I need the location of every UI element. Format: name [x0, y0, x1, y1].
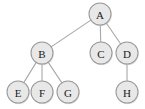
node-layer: ABCDEFGH [7, 3, 139, 104]
tree-diagram-canvas: ABCDEFGH [0, 0, 145, 109]
tree-node-b[interactable]: B [31, 42, 54, 65]
tree-edge-b-g [48, 62, 62, 83]
tree-node-c[interactable]: C [90, 42, 113, 65]
tree-edge-b-e [24, 62, 36, 82]
tree-node-e[interactable]: E [7, 81, 30, 104]
tree-node-label: G [64, 87, 72, 99]
tree-diagram: ABCDEFGH [0, 0, 145, 109]
tree-node-f[interactable]: F [31, 81, 54, 104]
tree-node-h[interactable]: H [116, 81, 139, 104]
tree-node-label: F [39, 87, 45, 99]
tree-node-a[interactable]: A [89, 3, 112, 26]
tree-node-label: A [96, 9, 104, 21]
tree-node-label: C [97, 48, 104, 60]
tree-node-g[interactable]: G [57, 81, 80, 104]
tree-node-label: E [15, 87, 22, 99]
tree-node-d[interactable]: D [116, 42, 139, 65]
tree-edge-a-b [51, 20, 91, 47]
tree-node-label: H [123, 87, 131, 99]
tree-edge-a-d [106, 23, 120, 44]
tree-node-label: B [38, 48, 45, 60]
tree-node-label: D [123, 48, 131, 60]
